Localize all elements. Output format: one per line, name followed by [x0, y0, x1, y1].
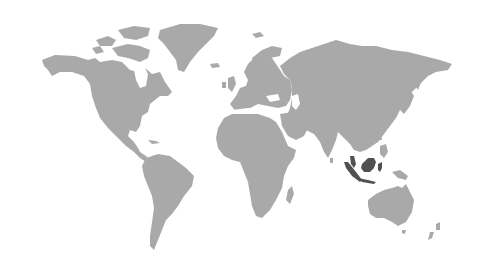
region-greenland — [158, 24, 220, 72]
region-new-zealand — [428, 222, 440, 240]
world-map: Indonesia Malaysia — [0, 0, 490, 268]
region-south-america — [142, 154, 194, 250]
region-europe — [222, 32, 292, 112]
world-map-svg — [0, 0, 490, 268]
region-north-america — [42, 26, 172, 162]
region-australia — [368, 184, 414, 234]
region-new-guinea — [392, 170, 408, 180]
region-malaysia-indonesia — [344, 156, 382, 184]
